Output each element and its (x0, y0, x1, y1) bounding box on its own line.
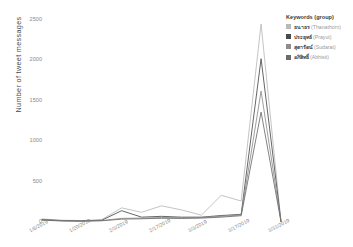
legend-item-keyword: ธนาธร (294, 23, 310, 31)
legend-item-transliteration: (Thanathorn) (311, 24, 341, 30)
series-lines (42, 24, 281, 222)
legend-color-swatch (286, 24, 291, 29)
legend-items: ธนาธร(Thanathorn)ประยุทธ์(Prayut)สุดารัต… (286, 23, 353, 62)
legend-item-transliteration: (Abhisit) (310, 54, 329, 60)
legend-item[interactable]: ธนาธร(Thanathorn) (286, 23, 353, 31)
y-axis-tick-labels: 05001000150020002500 (12, 0, 42, 247)
y-tick-label: 0 (14, 219, 42, 225)
legend: Keywords (group) ธนาธร(Thanathorn)ประยุท… (286, 14, 353, 63)
y-tick-label: 1000 (14, 138, 42, 144)
legend-item-transliteration: (Prayut) (313, 34, 331, 40)
series-line (42, 91, 281, 222)
y-tick-label: 2000 (14, 57, 42, 63)
legend-color-swatch (286, 34, 291, 39)
legend-item-keyword: ประยุทธ์ (294, 33, 312, 41)
legend-color-swatch (286, 44, 291, 49)
legend-item[interactable]: ประยุทธ์(Prayut) (286, 33, 353, 41)
legend-color-swatch (286, 55, 291, 60)
legend-item[interactable]: อภิสิทธิ์(Abhisit) (286, 53, 353, 61)
y-tick-label: 1500 (14, 98, 42, 104)
legend-title: Keywords (group) (286, 14, 353, 20)
legend-item[interactable]: สุดารัตน์(Sudarat) (286, 43, 353, 51)
y-tick-label: 500 (14, 179, 42, 185)
legend-item-transliteration: (Sudarat) (314, 44, 336, 50)
legend-item-keyword: สุดารัตน์ (294, 43, 313, 51)
tweet-messages-line-chart: Number of tweet messages 050010001500200… (0, 0, 353, 247)
legend-item-keyword: อภิสิทธิ์ (294, 53, 309, 61)
y-tick-label: 2500 (14, 17, 42, 23)
